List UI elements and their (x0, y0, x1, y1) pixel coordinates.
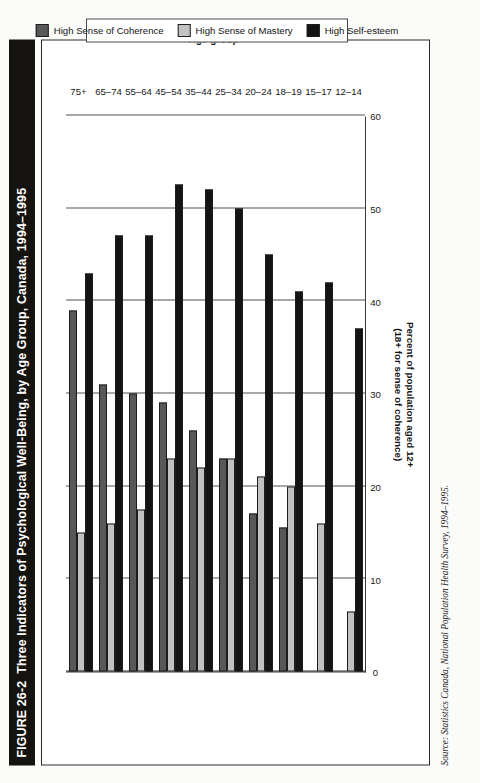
bar-mastery (227, 458, 235, 671)
legend-swatch-mastery (178, 24, 191, 37)
bar-esteem (175, 185, 183, 672)
bar-esteem (295, 291, 303, 671)
bar-esteem (115, 235, 123, 671)
category-tick-65–74: 65–74 (103, 71, 114, 111)
figure-title: Three Indicators of Psychological Well-B… (15, 187, 29, 673)
bar-esteem (85, 273, 93, 671)
bar-group (336, 116, 366, 671)
bar-group (66, 116, 96, 671)
bar-group (216, 116, 246, 671)
bar-mastery (167, 458, 175, 671)
bar-esteem (355, 328, 363, 671)
bar-mastery (257, 476, 265, 671)
legend-item-coherence: High Sense of Coherence (36, 24, 164, 37)
bar-mastery (197, 467, 205, 671)
category-tick-18–19: 18–19 (283, 71, 294, 111)
gridline-60 (66, 114, 365, 115)
bar-coherence (189, 430, 197, 671)
bar-coherence (219, 458, 227, 671)
legend-item-mastery: High Sense of Mastery (178, 24, 293, 37)
category-tick-25–34: 25–34 (223, 71, 234, 111)
bar-group (276, 116, 306, 671)
value-tick-30: 30 (370, 378, 381, 410)
legend-label-mastery: High Sense of Mastery (196, 25, 293, 36)
bar-mastery (317, 523, 325, 671)
bar-mastery (287, 486, 295, 671)
value-axis-title-line1: Percent of population aged 12+ (405, 321, 416, 467)
figure-source-note: Source: Statistics Canada, National Popu… (440, 39, 450, 765)
bar-mastery (107, 523, 115, 671)
bar-esteem (235, 208, 243, 671)
figure-canvas: FIGURE 26-2 Three Indicators of Psycholo… (0, 0, 480, 783)
chart-plot-area (66, 116, 366, 672)
bar-coherence (279, 527, 287, 671)
bar-coherence (129, 393, 137, 671)
value-axis-title: Percent of population aged 12+ (18+ for … (392, 116, 416, 672)
category-tick-12–14: 12–14 (343, 71, 354, 111)
rotated-figure-wrapper: FIGURE 26-2 Three Indicators of Psycholo… (0, 0, 480, 783)
legend-swatch-coherence (36, 24, 49, 37)
figure-title-bar: FIGURE 26-2 Three Indicators of Psycholo… (9, 39, 35, 765)
bar-coherence (99, 384, 107, 671)
category-tick-75+: 75+ (73, 71, 84, 111)
value-tick-60: 60 (370, 100, 381, 132)
bar-esteem (205, 189, 213, 671)
legend-item-esteem: High Self-esteem (307, 24, 399, 37)
category-tick-45–54: 45–54 (163, 71, 174, 111)
bar-esteem (145, 235, 153, 671)
bar-coherence (69, 310, 77, 671)
category-tick-15–17: 15–17 (313, 71, 324, 111)
bar-esteem (265, 254, 273, 671)
bar-group (156, 116, 186, 671)
legend-label-esteem: High Self-esteem (325, 25, 399, 36)
bar-coherence (249, 513, 257, 671)
legend-swatch-esteem (307, 24, 320, 37)
bar-mastery (137, 509, 145, 671)
value-tick-40: 40 (370, 285, 381, 317)
value-tick-50: 50 (370, 193, 381, 225)
bar-esteem (325, 282, 333, 671)
category-tick-55–64: 55–64 (133, 71, 144, 111)
legend-label-coherence: High Sense of Coherence (54, 25, 164, 36)
bar-group (96, 116, 126, 671)
bar-mastery (77, 532, 85, 671)
bar-group (246, 116, 276, 671)
category-tick-20–24: 20–24 (253, 71, 264, 111)
category-tick-35–44: 35–44 (193, 71, 204, 111)
value-tick-20: 20 (370, 471, 381, 503)
figure-page: FIGURE 26-2 Three Indicators of Psycholo… (0, 0, 480, 783)
figure-frame: 0102030405060 12–1415–1718–1920–2425–343… (41, 39, 430, 765)
bar-mastery (347, 611, 355, 671)
bar-group (126, 116, 156, 671)
figure-number: FIGURE 26-2 (15, 680, 29, 757)
bar-coherence (159, 402, 167, 671)
chart-legend: High Sense of CoherenceHigh Sense of Mas… (86, 18, 348, 42)
value-axis-title-line2: (18+ for sense of coherence) (393, 327, 404, 460)
value-tick-0: 0 (370, 656, 381, 688)
bar-group (306, 116, 336, 671)
plot-inner (66, 116, 365, 671)
bar-group (186, 116, 216, 671)
value-tick-10: 10 (370, 563, 381, 595)
